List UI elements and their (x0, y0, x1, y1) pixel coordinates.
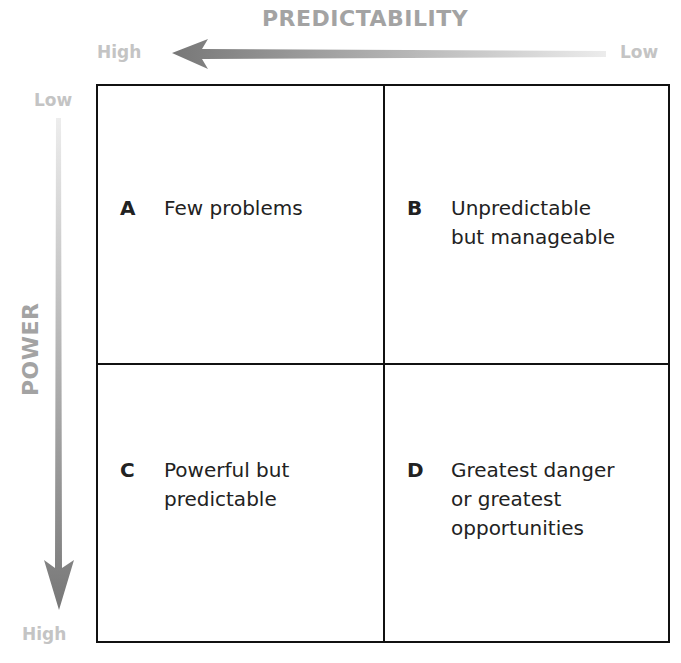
quadrant-grid: A Few problems B Unpredictable but manag… (96, 84, 670, 643)
quadrant-b-text: Unpredictable but manageable (451, 194, 615, 252)
horizontal-divider (98, 363, 668, 365)
power-high-label: High (22, 624, 66, 644)
quadrant-a-letter: A (120, 194, 164, 223)
quadrant-d-letter: D (407, 456, 451, 543)
quadrant-a-text: Few problems (164, 194, 303, 223)
quadrant-d: D Greatest danger or greatest opportunit… (407, 456, 614, 543)
quadrant-b: B Unpredictable but manageable (407, 194, 615, 252)
power-low-label: Low (34, 90, 72, 110)
predictability-high-label: High (97, 42, 141, 62)
quadrant-b-letter: B (407, 194, 451, 252)
predictability-arrow-icon (160, 38, 610, 72)
quadrant-c-text: Powerful but predictable (164, 456, 289, 514)
predictability-low-label: Low (620, 42, 658, 62)
quadrant-a: A Few problems (120, 194, 303, 223)
predictability-axis-title: PREDICTABILITY (262, 6, 468, 31)
power-axis-title: POWER (18, 302, 43, 396)
quadrant-c-letter: C (120, 456, 164, 514)
quadrant-d-text: Greatest danger or greatest opportunitie… (451, 456, 614, 543)
power-arrow-icon (42, 118, 76, 612)
quadrant-c: C Powerful but predictable (120, 456, 289, 514)
